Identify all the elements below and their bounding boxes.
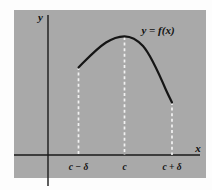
tick-label-c-minus-delta: c − δ: [69, 162, 89, 172]
plot-svg: y x y = f(x) c − δ c c + δ: [0, 0, 212, 190]
x-axis-label: x: [194, 142, 201, 154]
curve-equation-label: y = f(x): [139, 24, 174, 37]
tick-label-c-plus-delta: c + δ: [162, 162, 181, 172]
figure-root: y x y = f(x) c − δ c c + δ: [0, 0, 212, 190]
function-curve: [79, 36, 173, 102]
y-axis-label: y: [36, 11, 43, 23]
tick-label-c: c: [122, 162, 127, 172]
